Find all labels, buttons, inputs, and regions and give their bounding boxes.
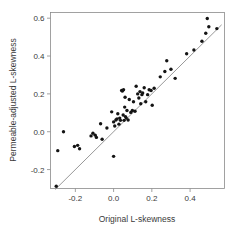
- data-point: [110, 110, 113, 113]
- data-point: [152, 86, 155, 89]
- data-point: [142, 86, 145, 89]
- one-to-one-reference-line: [55, 25, 221, 190]
- data-point: [137, 96, 140, 99]
- y-tick-label: 0.6: [33, 14, 45, 23]
- data-point: [169, 68, 172, 71]
- data-point: [73, 145, 76, 148]
- data-point: [151, 104, 154, 107]
- x-tick-label: 0.2: [146, 194, 158, 203]
- data-point: [173, 77, 176, 80]
- data-point: [125, 109, 128, 112]
- y-axis-label: Permeable-adjusted L-skewness: [8, 38, 18, 161]
- data-point: [163, 70, 166, 73]
- data-point: [123, 96, 126, 99]
- y-tick-label: 0.0: [33, 128, 45, 137]
- y-tick-label: 0.4: [33, 52, 45, 61]
- data-point: [76, 144, 79, 147]
- data-point: [123, 105, 126, 108]
- data-point: [116, 112, 119, 115]
- x-axis-tick-marks: [75, 189, 190, 193]
- y-tick-label: -0.2: [31, 166, 45, 175]
- data-point: [159, 75, 162, 78]
- data-point: [105, 126, 108, 129]
- data-point: [78, 147, 81, 150]
- data-point: [144, 100, 147, 103]
- data-point: [100, 138, 103, 141]
- data-point: [134, 85, 137, 88]
- plot-frame: [51, 13, 225, 189]
- plot-canvas: -0.20.00.20.4 -0.20.00.20.40.6 Original …: [0, 0, 232, 235]
- data-point: [112, 155, 115, 158]
- data-points-group: [55, 17, 219, 188]
- data-point: [99, 122, 102, 125]
- data-point: [206, 17, 209, 20]
- data-point: [141, 91, 144, 94]
- data-point: [185, 52, 188, 55]
- data-point: [126, 118, 129, 121]
- data-point: [215, 27, 218, 30]
- data-point: [132, 100, 135, 103]
- data-point: [62, 130, 65, 133]
- data-point: [128, 98, 131, 101]
- data-point: [139, 102, 142, 105]
- data-point: [200, 40, 203, 43]
- data-point: [165, 59, 168, 62]
- data-point: [192, 48, 195, 51]
- data-point: [119, 119, 122, 122]
- x-axis-label: Original L-skewness: [99, 214, 176, 224]
- data-point: [207, 25, 210, 28]
- data-point: [56, 149, 59, 152]
- data-point: [133, 110, 136, 113]
- data-point: [204, 32, 207, 35]
- x-tick-label: -0.2: [68, 194, 82, 203]
- x-tick-label: 0.4: [185, 194, 197, 203]
- data-point: [117, 122, 120, 125]
- y-tick-labels: -0.20.00.20.40.6: [31, 14, 45, 174]
- data-point: [95, 136, 98, 139]
- data-point: [149, 89, 152, 92]
- data-point: [113, 124, 116, 127]
- x-tick-labels: -0.20.00.20.4: [68, 194, 196, 203]
- y-tick-label: 0.2: [33, 90, 45, 99]
- scatter-plot-figure: -0.20.00.20.4 -0.20.00.20.40.6 Original …: [0, 0, 232, 235]
- data-point: [146, 93, 149, 96]
- x-tick-label: 0.0: [108, 194, 120, 203]
- y-axis-tick-marks: [47, 18, 51, 169]
- data-point: [122, 88, 125, 91]
- data-point: [55, 185, 58, 188]
